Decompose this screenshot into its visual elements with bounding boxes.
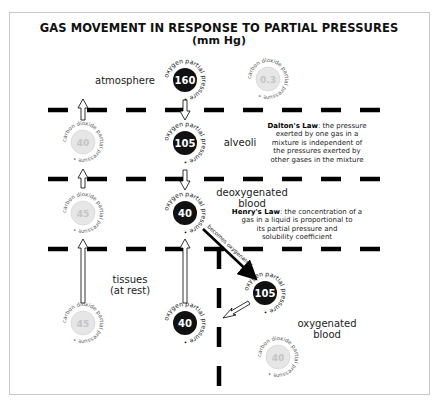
o2-arrow-blood-to-tissues — [223, 301, 250, 318]
atmosphere-co2-value: 0.3 — [260, 75, 276, 85]
alveoli-co2-circle: 40 carbon dioxide partial pressure • — [61, 120, 105, 164]
daltons-law-title: Dalton's Law — [267, 122, 317, 130]
oxygenated-co2-circle: 40 carbon dioxide partial pressure • — [256, 335, 300, 379]
oxygenated-blood-label: oxygenated blood — [292, 318, 362, 340]
oxygenated-oxygen-circle: 105 oxygen partial pressure • — [242, 270, 288, 316]
tissues-oxygen-value: 40 — [178, 318, 192, 329]
tissues-oxygen-circle: 40 oxygen partial pressure • — [162, 300, 208, 346]
alveoli-oxygen-value: 105 — [175, 138, 196, 149]
deoxygenated-blood-line1: deoxygenated — [212, 187, 292, 198]
alveoli-oxygen-circle: 105 oxygen partial pressure • — [162, 120, 208, 166]
oxygenated-co2-value: 40 — [272, 353, 285, 363]
henrys-law-note: Henry's Law: the concentration of a gas … — [227, 208, 367, 242]
deoxygenated-oxygen-circle: 40 oxygen partial pressure • — [162, 190, 208, 236]
atmosphere-oxygen-value: 160 — [175, 75, 196, 86]
oxygenated-blood-line1: oxygenated — [292, 318, 362, 329]
tissues-label: tissues (at rest) — [100, 274, 160, 296]
deoxygenated-oxygen-value: 40 — [178, 208, 192, 219]
alveoli-label: alveoli — [220, 137, 260, 148]
deoxygenated-co2-circle: 45 carbon dioxide partial pressure • — [61, 191, 105, 235]
tissues-line1: tissues — [100, 274, 160, 285]
atmosphere-label: atmosphere — [90, 75, 160, 86]
henrys-law-title: Henry's Law — [232, 208, 280, 216]
deoxygenated-co2-value: 45 — [77, 209, 90, 219]
daltons-law-note: Dalton's Law: the pressure exerted by on… — [259, 122, 375, 164]
deoxygenated-blood-label: deoxygenated blood — [212, 187, 292, 209]
tissues-line2: (at rest) — [100, 285, 160, 296]
alveoli-co2-value: 40 — [77, 138, 90, 148]
tissues-co2-circle: 45 carbon dioxide partial pressure • — [61, 301, 105, 345]
oxygenated-oxygen-value: 105 — [255, 288, 276, 299]
oxygenated-blood-line2: blood — [292, 329, 362, 340]
co2-arrow-blood-to-alveoli — [78, 169, 88, 188]
atmosphere-co2-circle: 0.3 carbon dioxide partial pressure • — [246, 57, 290, 101]
atmosphere-oxygen-circle: 160 oxygen partial pressure • — [162, 57, 208, 103]
tissues-co2-value: 45 — [77, 319, 90, 329]
co2-arrow-alveoli-to-atmosphere — [78, 99, 88, 120]
co2-arrow-tissues-to-blood — [78, 239, 88, 303]
